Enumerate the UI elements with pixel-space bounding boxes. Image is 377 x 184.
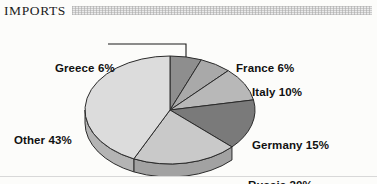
- footer-rule: [0, 176, 377, 177]
- slice-label-greece: Greece 6%: [55, 62, 115, 74]
- header-decorative-rule: [72, 6, 372, 15]
- leader-line-greece: [108, 44, 186, 57]
- page-title: IMPORTS: [4, 3, 66, 19]
- pie-chart: Greece 6% France 6% Italy 10% Germany 15…: [0, 24, 377, 176]
- slice-label-other: Other 43%: [14, 134, 72, 146]
- slice-label-italy: Italy 10%: [252, 86, 302, 98]
- slice-label-russia: Russia 20%: [248, 179, 313, 184]
- header-band: IMPORTS: [0, 0, 377, 24]
- slice-label-germany: Germany 15%: [252, 139, 329, 151]
- pie-chart-svg: [0, 24, 377, 176]
- chart-page: IMPORTS Greece 6% France 6% Italy 10% Ge…: [0, 0, 377, 184]
- slice-label-france: France 6%: [236, 62, 294, 74]
